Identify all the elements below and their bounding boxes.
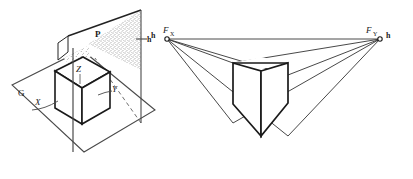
label-axis-x: X [34, 97, 41, 107]
perspective-diagram: G P X Y Z h [0, 0, 413, 179]
vanishing-point-x-marker [165, 37, 169, 41]
cube-perspective [233, 57, 288, 136]
convergence-line-fx-lower-edge [167, 39, 233, 123]
label-vanishing-point-x: F [162, 25, 169, 35]
cube-perspective-left-face [233, 63, 261, 136]
label-vanishing-point-y-subscript: Y [373, 31, 378, 37]
label-vanishing-point-x-subscript: X [170, 31, 175, 37]
label-picture-plane: P [95, 29, 101, 39]
cube-spatial [55, 57, 110, 124]
label-horizon-left: h [151, 31, 156, 40]
label-horizon-right: h [386, 31, 391, 40]
convergence-line-fy-lower-edge [288, 39, 380, 136]
vanishing-point-y-marker [378, 37, 382, 41]
figure-container: G P X Y Z h [0, 0, 413, 179]
left-diagram-group: G P X Y Z h [12, 10, 155, 152]
convergence-line-fy-upper-edge [288, 39, 380, 75]
picture-plane-near-panel [58, 36, 68, 60]
right-diagram-group: h F X F Y h [151, 25, 391, 136]
label-vanishing-point-y: F [365, 25, 372, 35]
label-ground-plane: G [18, 88, 25, 98]
